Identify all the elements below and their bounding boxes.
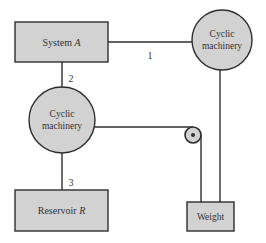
- energy-interaction-diagram: System A Cyclic machinery Cyclic machine…: [0, 0, 266, 243]
- weight-label: Weight: [197, 212, 225, 222]
- reservoir-r-label: Reservoir R: [38, 205, 86, 216]
- system-a-box: System A: [15, 22, 108, 62]
- cyclic-mid-line1: Cyclic: [50, 109, 75, 119]
- system-a-label: System A: [42, 37, 81, 48]
- pulley-icon: [185, 127, 201, 143]
- cyclic-top-line2: machinery: [202, 41, 242, 51]
- reservoir-r-box: Reservoir R: [15, 190, 108, 231]
- cyclic-machinery-middle: Cyclic machinery: [29, 87, 95, 153]
- edge-label-1: 1: [148, 50, 153, 61]
- cyclic-mid-line2: machinery: [42, 121, 82, 131]
- cyclic-top-line1: Cyclic: [210, 29, 235, 39]
- edge-label-2: 2: [69, 73, 74, 84]
- cyclic-machinery-top: Cyclic machinery: [192, 10, 252, 70]
- weight-box: Weight: [187, 202, 234, 231]
- edge-label-3: 3: [69, 177, 74, 188]
